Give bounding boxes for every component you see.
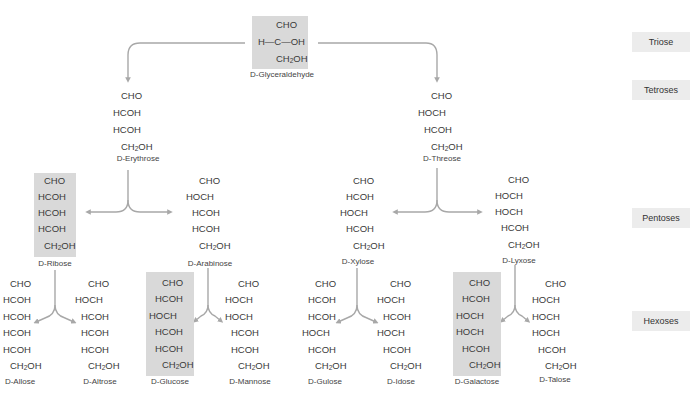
formula-row: HCOH: [538, 342, 566, 359]
formula-row: HCOH: [3, 309, 31, 326]
formula-row: HCOH: [38, 189, 66, 206]
formula-row: CH2OH: [315, 358, 347, 375]
label-glucose: D-Glucose: [146, 377, 194, 386]
arrow-glyceraldehyde-erythrose: [128, 43, 245, 80]
arrow-glyceraldehyde-threose: [318, 43, 437, 80]
formula-row: HCOH: [113, 122, 141, 139]
formula-row: CHO: [545, 276, 566, 293]
formula-row: HCOH: [81, 325, 109, 342]
formula-row: HCOH: [155, 291, 183, 308]
label-talose: D-Talose: [533, 375, 577, 384]
formula-row: HOCH: [532, 292, 560, 309]
formula-row: HOCH: [532, 309, 560, 326]
formula-row: CH2OH: [44, 238, 76, 255]
formula-row: HCOH: [192, 205, 220, 222]
formula-row: HOCH: [377, 325, 405, 342]
formula-row: CH2OH: [10, 358, 42, 375]
formula-row: HOCH: [377, 292, 405, 309]
label-glyceraldehyde: D-Glyceraldehyde: [250, 70, 312, 79]
formula-row: HOCH: [302, 325, 330, 342]
formula-row: HCOH: [424, 122, 452, 139]
formula-row: HCOH: [346, 189, 374, 206]
label-galactose: D-Galactose: [450, 377, 504, 386]
label-lyxose: D-Lyxose: [494, 256, 544, 265]
level-badge-pentoses: Pentoses: [632, 208, 690, 228]
molecule-allose: CHO HCOH HCOH HCOH HCOH CH2OH: [3, 276, 45, 376]
formula-row: HCOH: [81, 309, 109, 326]
formula-row: CH2OH: [545, 358, 577, 375]
formula-row: HCOH: [3, 342, 31, 359]
label-idose: D-Idose: [381, 377, 421, 386]
formula-row: HCOH: [462, 341, 490, 358]
molecule-glucose: CHO HCOH HOCH HCOH HCOH CH2OH: [146, 272, 194, 376]
formula-row: HCOH: [155, 324, 183, 341]
formula-row: HOCH: [532, 325, 560, 342]
formula-row: CHO: [238, 276, 259, 293]
formula-row: HCOH: [462, 291, 490, 308]
d-aldose-family-tree: Triose Tetroses Pentoses Hexoses CHO H—C…: [0, 0, 696, 398]
formula-row: HOCH: [495, 204, 523, 221]
formula-row: HCOH: [501, 220, 529, 237]
formula-row: HCOH: [38, 205, 66, 222]
formula-row: CHO: [508, 172, 529, 189]
formula-row: CHO: [276, 17, 297, 34]
formula-row: HCOH: [383, 342, 411, 359]
formula-row: CH2OH: [238, 358, 270, 375]
formula-row: HCOH: [308, 292, 336, 309]
formula-row: CHO: [315, 276, 336, 293]
molecule-mannose: CHO HOCH HOCH HCOH HCOH CH2OH: [225, 276, 275, 376]
molecule-glyceraldehyde: CHO H—C—OH CH2OH: [252, 16, 308, 69]
formula-row: HOCH: [340, 205, 368, 222]
label-erythrose: D-Erythrose: [108, 154, 168, 163]
label-threose: D-Threose: [412, 154, 472, 163]
formula-row: CHO: [353, 173, 374, 190]
formula-row: HCOH: [231, 325, 259, 342]
formula-row: HCOH: [113, 105, 141, 122]
label-gulose: D-Gulose: [302, 377, 348, 386]
formula-row: CHO: [199, 173, 220, 190]
formula-row: HCOH: [308, 342, 336, 359]
molecule-idose: CHO HOCH HCOH HOCH HCOH CH2OH: [377, 276, 427, 376]
molecule-gulose: CHO HCOH HCOH HOCH HCOH CH2OH: [302, 276, 352, 376]
label-arabinose: D-Arabinose: [185, 259, 235, 268]
formula-row: CHO: [431, 88, 452, 105]
formula-row: CH2OH: [276, 51, 308, 68]
formula-row: HCOH: [192, 221, 220, 238]
molecule-galactose: CHO HCOH HOCH HOCH HCOH CH2OH: [453, 272, 501, 376]
formula-row: CH2OH: [88, 358, 120, 375]
molecule-xylose: CHO HCOH HOCH HCOH CH2OH: [340, 173, 390, 257]
formula-row: HOCH: [456, 324, 484, 341]
label-ribose: D-Ribose: [30, 259, 80, 268]
formula-row: HCOH: [3, 325, 31, 342]
formula-row: CHO: [121, 88, 142, 105]
molecule-lyxose: CHO HOCH HOCH HCOH CH2OH: [495, 172, 545, 256]
formula-row: HCOH: [81, 342, 109, 359]
label-xylose: D-Xylose: [333, 257, 383, 266]
formula-row: CH2OH: [508, 237, 540, 254]
formula-row: HCOH: [3, 292, 31, 309]
formula-row: CHO: [162, 275, 183, 292]
formula-row: HOCH: [225, 292, 253, 309]
formula-row: HCOH: [155, 341, 183, 358]
molecule-threose: CHO HOCH HCOH CH2OH: [418, 88, 478, 158]
formula-row: CH2OH: [469, 357, 501, 374]
formula-row: HOCH: [75, 292, 103, 309]
level-badge-hexoses: Hexoses: [632, 311, 690, 331]
molecule-arabinose: CHO HOCH HCOH HCOH CH2OH: [186, 173, 236, 257]
molecule-ribose: CHO HCOH HCOH HCOH CH2OH: [34, 173, 76, 257]
level-badge-tetroses: Tetroses: [632, 80, 690, 100]
label-altrose: D-Altrose: [77, 377, 123, 386]
formula-row: HOCH: [186, 189, 214, 206]
formula-row: HOCH: [495, 188, 523, 205]
formula-row: CHO: [44, 173, 65, 190]
formula-row: HOCH: [149, 308, 177, 325]
formula-row: HCOH: [308, 309, 336, 326]
formula-row: HOCH: [418, 105, 446, 122]
formula-row: CHO: [88, 276, 109, 293]
molecule-erythrose: CHO HCOH HCOH CH2OH: [113, 88, 173, 158]
formula-row: HCOH: [383, 309, 411, 326]
formula-row: CHO: [10, 276, 31, 293]
formula-row: HCOH: [346, 221, 374, 238]
formula-row: CH2OH: [390, 358, 422, 375]
label-mannose: D-Mannose: [224, 377, 276, 386]
